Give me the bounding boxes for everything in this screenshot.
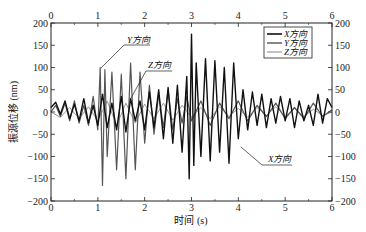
y-axis-title: 振源位移 (nm) xyxy=(7,81,20,143)
annotation-z-direction: Z方向 xyxy=(148,60,172,70)
y-tick-label-right: −150 xyxy=(335,173,356,184)
x-tick-label: 6 xyxy=(330,202,335,213)
x-tick-label-top: 1 xyxy=(95,10,100,21)
x-tick-label-top: 5 xyxy=(283,10,288,21)
y-tick-label-right: 200 xyxy=(335,18,350,29)
y-tick-label: −150 xyxy=(27,173,48,184)
y-tick-label: 50 xyxy=(38,84,48,95)
x-tick-label: 4 xyxy=(236,202,241,213)
x-tick-label-top: 2 xyxy=(142,10,147,21)
x-tick-label: 3 xyxy=(189,202,194,213)
annotation-leader-z xyxy=(131,71,172,98)
y-tick-label-right: −50 xyxy=(335,129,351,140)
y-tick-label-right: 50 xyxy=(335,84,345,95)
y-tick-label-right: 100 xyxy=(335,62,350,73)
y-tick-label-right: 150 xyxy=(335,40,350,51)
legend: X方向 Y方向 Z方向 xyxy=(264,27,312,58)
annotation-y-direction: Y方向 xyxy=(127,35,151,45)
x-tick-label-top: 3 xyxy=(189,10,194,21)
y-tick-label: 100 xyxy=(33,62,48,73)
x-tick-label: 1 xyxy=(95,202,100,213)
x-tick-label: 0 xyxy=(49,202,54,213)
y-tick-label-right: −200 xyxy=(335,196,356,207)
y-tick-label: 200 xyxy=(33,18,48,29)
annotation-leader-y xyxy=(101,45,150,68)
y-tick-label-right: 0 xyxy=(335,107,340,118)
y-tick-label: 0 xyxy=(43,107,48,118)
vibration-displacement-chart: 00112233445566200200150150100100505000−5… xyxy=(0,0,366,232)
x-tick-label-top: 0 xyxy=(49,10,54,21)
x-tick-label-top: 6 xyxy=(330,10,335,21)
y-tick-label: 150 xyxy=(33,40,48,51)
y-tick-label: −100 xyxy=(27,151,48,162)
series-Y方向 xyxy=(51,63,332,185)
y-tick-label-right: −100 xyxy=(335,151,356,162)
x-tick-label: 2 xyxy=(142,202,147,213)
annotation-x-direction: X方向 xyxy=(267,154,292,164)
y-tick-label: −50 xyxy=(32,129,48,140)
x-tick-label: 5 xyxy=(283,202,288,213)
x-axis-title: 时间 (s) xyxy=(174,214,207,227)
legend-label-z: Z方向 xyxy=(284,47,308,57)
x-tick-label-top: 4 xyxy=(236,10,241,21)
y-tick-label: −200 xyxy=(27,196,48,207)
